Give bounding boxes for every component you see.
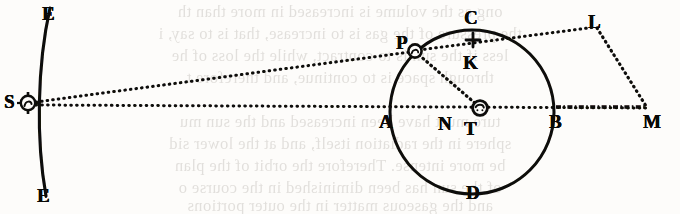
dotted-line-p-through-k-to-l	[419, 27, 596, 50]
point-label-d: D	[466, 183, 480, 202]
point-label-l: L	[588, 12, 601, 31]
point-label-t: T	[464, 119, 477, 138]
cross-marker-at-k	[466, 33, 480, 47]
planet-marker-at-p	[408, 44, 421, 57]
sun-symbol-at-s	[17, 92, 39, 114]
point-label-a: A	[379, 112, 393, 131]
earth-symbol-at-t	[473, 101, 488, 116]
dotted-line-s-to-p	[36, 52, 410, 102]
astronomical-diagram	[0, 0, 680, 214]
point-label-k: K	[463, 53, 478, 72]
point-label-m: M	[643, 112, 661, 131]
point-label-e-top: E	[42, 4, 55, 23]
point-label-n: N	[438, 114, 452, 133]
figure-page: ong as the volume is increased in more t…	[0, 0, 680, 214]
point-label-e-bottom: E	[37, 186, 50, 205]
point-label-s: S	[4, 92, 15, 111]
dotted-line-l-to-m	[597, 28, 646, 106]
point-label-p: P	[396, 33, 408, 52]
point-label-b: B	[549, 112, 562, 131]
point-label-c: C	[464, 8, 478, 27]
